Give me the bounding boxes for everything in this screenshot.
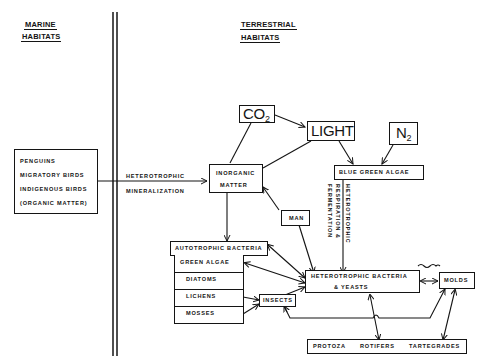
label-mineralization: MINERALIZATION [126,188,185,195]
inorganic-label-line1: INORGANIC [216,170,255,177]
vertical-label-heterotrophic: HETEROTROPHIC [345,184,351,244]
autotrophic-bacteria-node: AUTOTROPHIC BACTERIA [170,241,268,256]
stack-divider [175,306,243,307]
man-node: MAN [281,210,310,226]
terrestrial-header-line2: HABITATS [240,33,280,43]
blue-green-algae-label: BLUE GREEN ALGAE [339,169,409,176]
co2-node: CO2 [239,105,275,123]
stack-divider [175,272,243,273]
label-heterotrophic: HETEROTROPHIC [126,173,185,180]
terrestrial-header-line1: TERRESTRIAL [240,20,297,30]
molds-node: MOLDS [439,272,475,289]
marine-sources-box: PENGUINS MIGRATORY BIRDS INDIGENOUS BIRD… [14,149,98,214]
marine-item-organic-matter: (ORGANIC MATTER) [20,200,87,207]
blue-green-algae-node: BLUE GREEN ALGAE [334,165,424,180]
vertical-label-respiration: RESPIRATION & [335,184,341,239]
vertical-label-fermentation: FERMENTATION [327,184,333,238]
bottom-item-tartegrades: TARTEGRADES [409,343,460,350]
heterotrophic-bacteria-yeasts-node: HETEROTROPHIC BACTERIA & YEASTS [305,270,420,293]
molds-label: MOLDS [444,277,468,284]
stack-item-diatoms: DIATOMS [186,276,217,283]
marine-item-indigenous-birds: INDIGENOUS BIRDS [20,186,87,193]
n2-node: N2 [389,122,418,145]
marine-item-penguins: PENGUINS [20,158,56,165]
marine-item-migratory-birds: MIGRATORY BIRDS [20,172,84,179]
stack-item-green-algae: GREEN ALGAE [180,259,230,266]
marine-header-line2: HABITATS [21,32,61,42]
inorganic-matter-node: INORGANIC MATTER [209,164,263,193]
man-label: MAN [289,215,304,222]
autotroph-stack: GREEN ALGAE DIATOMS LICHENS MOSSES [174,255,244,324]
hetero-bacteria-label-line1: HETEROTROPHIC BACTERIA [311,273,408,280]
inorganic-label-line2: MATTER [220,182,248,189]
insects-label: INSECTS [263,297,293,304]
n2-label: N2 [396,125,411,146]
light-label: LIGHT [311,123,354,139]
hetero-bacteria-label-line2: & YEASTS [334,284,368,291]
insects-node: INSECTS [259,294,296,307]
light-node: LIGHT [307,121,355,141]
autotrophic-bacteria-label: AUTOTROPHIC BACTERIA [175,245,262,252]
marine-header-line1: MARINE [24,20,57,30]
stack-item-lichens: LICHENS [186,293,216,300]
bottom-item-rotifers: ROTIFERS [360,343,395,350]
stack-item-mosses: MOSSES [186,310,215,317]
protozoa-rotifers-tartegrades-node: PROTOZA ROTIFERS TARTEGRADES [307,339,467,354]
stack-divider [175,289,243,290]
co2-label: CO2 [243,106,270,127]
bottom-item-protoza: PROTOZA [313,343,346,350]
